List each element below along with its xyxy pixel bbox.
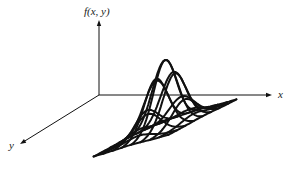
y-axis-arrow-icon [20,139,26,144]
f-axis-label: f(x, y) [84,6,110,17]
gaussian-surface-diagram [0,0,292,173]
y-axis-label: y [9,140,14,151]
axes [24,24,268,142]
y-axis-line [24,95,99,142]
f-axis-arrow-icon [97,20,101,26]
x-axis-label: x [278,89,283,100]
gaussian-wireframe-surface [94,60,237,157]
x-axis-arrow-icon [266,93,272,97]
mesh-line-constant-x [131,60,199,145]
